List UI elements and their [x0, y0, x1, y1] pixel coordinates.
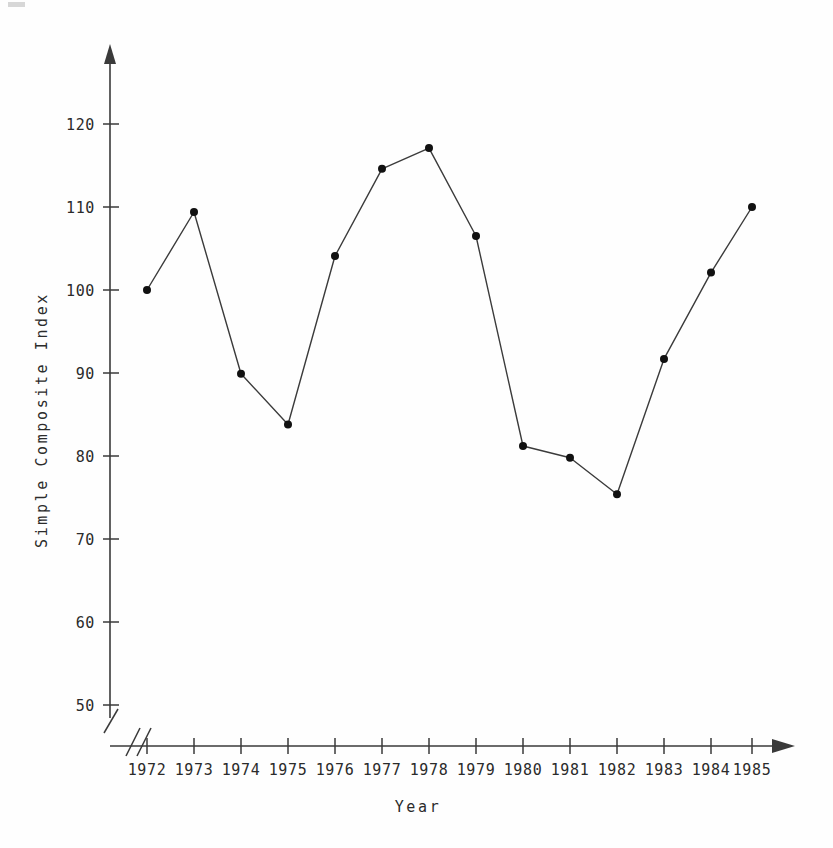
y-tick-label: 60 [76, 614, 95, 632]
x-tick-label: 1983 [645, 761, 684, 779]
y-tick-label: 70 [76, 531, 95, 549]
data-point [660, 355, 668, 363]
data-point [284, 421, 292, 429]
data-point-group [143, 144, 756, 498]
data-point [472, 232, 480, 240]
y-axis-title: Simple Composite Index [33, 292, 51, 548]
x-axis [110, 739, 795, 753]
y-tick-group: 120 110 100 90 80 70 60 50 [66, 116, 119, 715]
line-chart: 120 110 100 90 80 70 60 50 1972 1973 197… [0, 0, 833, 848]
data-line-series [147, 148, 752, 494]
data-point [378, 165, 386, 173]
x-axis-arrow-icon [772, 739, 795, 753]
chart-page: 120 110 100 90 80 70 60 50 1972 1973 197… [0, 0, 833, 848]
x-tick-label: 1980 [504, 761, 543, 779]
x-tick-label: 1975 [269, 761, 308, 779]
y-tick-label: 80 [76, 448, 95, 466]
x-tick-label: 1978 [410, 761, 449, 779]
data-point [143, 286, 151, 294]
y-axis [104, 44, 116, 718]
x-tick-label: 1977 [363, 761, 402, 779]
x-tick-label: 1981 [551, 761, 590, 779]
y-tick-label: 120 [66, 116, 95, 134]
data-point [707, 269, 715, 277]
data-point [190, 208, 198, 216]
data-point [331, 252, 339, 260]
x-tick-label: 1984 [692, 761, 731, 779]
x-tick-label: 1976 [316, 761, 355, 779]
x-tick-label: 1974 [222, 761, 261, 779]
data-point [425, 144, 433, 152]
x-tick-label: 1979 [457, 761, 496, 779]
y-axis-arrow-icon [104, 44, 116, 64]
x-axis-title: Year [395, 798, 442, 816]
y-tick-label: 90 [76, 365, 95, 383]
y-tick-label: 100 [66, 282, 95, 300]
data-point [237, 370, 245, 378]
data-point [613, 490, 621, 498]
y-tick-label: 110 [66, 199, 95, 217]
x-tick-label: 1973 [175, 761, 214, 779]
x-tick-label: 1985 [733, 761, 772, 779]
data-point [519, 442, 527, 450]
x-tick-group: 1972 1973 1974 1975 1976 1977 1978 1979 … [128, 738, 772, 779]
data-point [566, 454, 574, 462]
y-tick-label: 50 [76, 697, 95, 715]
x-tick-label: 1972 [128, 761, 167, 779]
data-point [748, 203, 756, 211]
x-tick-label: 1982 [598, 761, 637, 779]
axis-break-symbol [104, 709, 151, 756]
